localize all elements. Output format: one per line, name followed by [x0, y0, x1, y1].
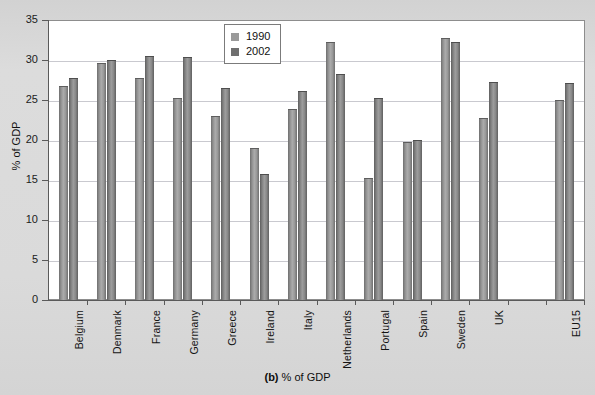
- bar-italy-2002: [298, 91, 307, 300]
- x-axis-tick: [355, 300, 356, 305]
- legend-item: 1990: [231, 29, 270, 44]
- y-axis-tick: [42, 260, 48, 261]
- bar-spain-1990: [403, 142, 412, 300]
- y-axis-tick: [42, 60, 48, 61]
- x-axis-tick: [317, 300, 318, 305]
- legend-item: 2002: [231, 44, 270, 59]
- bar-germany-2002: [183, 57, 192, 300]
- legend: 1990 2002: [224, 24, 281, 64]
- caption-prefix: (b): [264, 371, 278, 383]
- bar-uk-2002: [489, 82, 498, 300]
- x-axis-tick-label: Netherlands: [341, 310, 353, 369]
- bar-greece-1990: [211, 116, 220, 300]
- bar-germany-1990: [173, 98, 182, 300]
- y-axis-tick-label: 10: [2, 214, 38, 225]
- bar-netherlands-2002: [336, 74, 345, 300]
- y-axis-tick: [42, 220, 48, 221]
- y-axis-tick-labels: 05101520253035: [0, 0, 38, 395]
- x-axis-tick: [240, 300, 241, 305]
- legend-swatch-2002: [231, 48, 239, 56]
- x-axis-tick-label: Denmark: [111, 310, 123, 354]
- x-axis-tick-label: Portugal: [379, 310, 391, 351]
- x-axis-tick-label: Belgium: [73, 310, 85, 349]
- x-axis-tick: [87, 300, 88, 305]
- x-axis-tick: [125, 300, 126, 305]
- x-axis-tick: [393, 300, 394, 305]
- x-axis-tick: [202, 300, 203, 305]
- bar-netherlands-1990: [326, 42, 335, 300]
- x-axis-tick: [469, 300, 470, 305]
- bar-eu15-1990: [555, 100, 564, 300]
- bar-portugal-1990: [364, 178, 373, 300]
- bar-uk-1990: [479, 118, 488, 300]
- x-axis-tick: [584, 300, 585, 305]
- y-axis-tick: [42, 20, 48, 21]
- bar-chart-figure: 05101520253035 BelgiumDenmarkFranceGerma…: [0, 0, 595, 395]
- x-axis-tick: [431, 300, 432, 305]
- x-axis-tick: [278, 300, 279, 305]
- x-axis-tick-label: Germany: [188, 310, 200, 355]
- legend-label-2002: 2002: [246, 46, 270, 57]
- bar-france-2002: [145, 56, 154, 300]
- figure-caption: (b) % of GDP: [0, 371, 595, 383]
- legend-label-1990: 1990: [246, 31, 270, 42]
- x-axis-tick-label: EU15: [570, 310, 582, 337]
- y-axis-tick-label: 30: [2, 54, 38, 65]
- x-axis-tick-label: France: [150, 310, 162, 344]
- x-axis-tick-label: Sweden: [455, 310, 467, 349]
- y-axis-tick-label: 0: [2, 294, 38, 305]
- bar-sweden-1990: [441, 38, 450, 300]
- y-axis-tick-label: 35: [2, 14, 38, 25]
- x-axis-tick-label: Ireland: [264, 310, 276, 344]
- y-axis-tick: [42, 140, 48, 141]
- y-axis-tick: [42, 180, 48, 181]
- bar-sweden-2002: [451, 42, 460, 300]
- bar-spain-2002: [413, 140, 422, 300]
- x-axis-tick: [508, 300, 509, 305]
- bar-belgium-2002: [69, 78, 78, 300]
- bar-denmark-2002: [107, 60, 116, 300]
- y-axis-line: [48, 20, 49, 300]
- x-axis-tick-label: Spain: [417, 310, 429, 338]
- bar-portugal-2002: [374, 98, 383, 300]
- y-axis-title: % of GDP: [10, 101, 22, 191]
- caption-text: % of GDP: [279, 371, 331, 383]
- bar-italy-1990: [288, 109, 297, 300]
- bar-ireland-1990: [250, 148, 259, 300]
- bar-belgium-1990: [59, 86, 68, 300]
- bar-eu15-2002: [565, 83, 574, 300]
- y-axis-tick: [42, 100, 48, 101]
- x-axis-tick-label: Greece: [226, 310, 238, 346]
- y-axis-tick-label: 5: [2, 254, 38, 265]
- legend-swatch-1990: [231, 33, 239, 41]
- bar-france-1990: [135, 78, 144, 300]
- x-axis-tick-label: Italy: [302, 310, 314, 330]
- y-axis-tick: [42, 300, 48, 301]
- bar-ireland-2002: [260, 174, 269, 300]
- bar-denmark-1990: [97, 63, 106, 300]
- bar-greece-2002: [221, 88, 230, 300]
- bars-layer: [49, 20, 584, 300]
- x-axis-tick: [164, 300, 165, 305]
- x-axis-tick: [546, 300, 547, 305]
- figure-page: 05101520253035 BelgiumDenmarkFranceGerma…: [0, 0, 595, 395]
- x-axis-tick-label: UK: [493, 310, 505, 325]
